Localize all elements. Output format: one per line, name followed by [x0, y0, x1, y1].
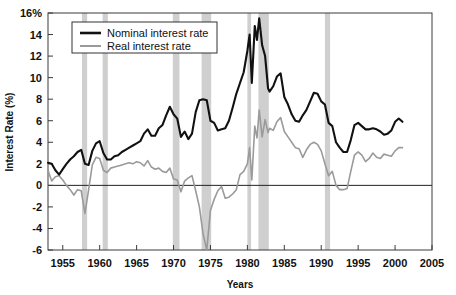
y-axis-tick-label: 10 — [30, 72, 42, 84]
y-axis-tick-label: 8 — [36, 93, 42, 105]
x-axis-tick-label: 1995 — [346, 257, 370, 269]
x-axis-title: Years — [227, 279, 254, 290]
x-axis-tick-label: 1970 — [161, 257, 185, 269]
x-axis-tick-label: 1990 — [309, 257, 333, 269]
x-axis-tick-label: 2005 — [420, 257, 444, 269]
y-axis-tick-label: -6 — [32, 244, 42, 256]
x-axis-ticks-group — [63, 245, 432, 250]
y-axis-ticks-group — [48, 13, 53, 250]
x-axis-tick-label: 1985 — [272, 257, 296, 269]
y-axis-tick-label: 16% — [20, 7, 42, 19]
x-axis-tick-label: 2000 — [383, 257, 407, 269]
series-line-real-interest-rate — [48, 110, 402, 250]
y-axis-tick-label: 14 — [30, 29, 43, 41]
x-axis-tick-label: 1960 — [87, 257, 111, 269]
chart-canvas: -6-4-20246810121416% 1955196019651970197… — [0, 0, 456, 295]
y-axis-tick-label: 4 — [36, 136, 43, 148]
x-axis-tick-label: 1980 — [235, 257, 259, 269]
y-axis-tick-label: 2 — [36, 158, 42, 170]
x-axis-tick-labels-group: 1955196019651970197519801985199019952000… — [51, 257, 445, 269]
y-axis-tick-label: 12 — [30, 50, 42, 62]
legend-label-real: Real interest rate — [107, 40, 191, 52]
x-axis-tick-label: 1955 — [51, 257, 75, 269]
y-axis-tick-label: -4 — [32, 222, 43, 234]
x-axis-tick-label: 1975 — [198, 257, 222, 269]
chart-legend: Nominal interest rate Real interest rate — [72, 22, 217, 53]
y-axis-tick-label: 6 — [36, 115, 42, 127]
x-axis-tick-label: 1965 — [124, 257, 148, 269]
y-axis-tick-label: 0 — [36, 179, 42, 191]
interest-rate-chart-figure: -6-4-20246810121416% 1955196019651970197… — [0, 0, 456, 295]
recession-band — [325, 13, 330, 250]
y-axis-tick-labels-group: -6-4-20246810121416% — [20, 7, 43, 256]
y-axis-tick-label: -2 — [32, 201, 42, 213]
y-axis-title: Interest Rate (%) — [4, 93, 15, 172]
legend-label-nominal: Nominal interest rate — [107, 27, 209, 39]
